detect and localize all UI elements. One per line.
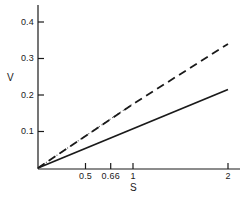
x-tick-marks xyxy=(86,163,229,169)
x-tick-label-1: 1 xyxy=(123,171,143,181)
y-axis-title: V xyxy=(7,72,14,83)
plot-area xyxy=(0,0,250,199)
chart-figure: 0.1 0.2 0.3 0.4 0.5 0.66 1 2 V S xyxy=(0,0,250,199)
y-tick-label-0.4: 0.4 xyxy=(10,17,34,27)
y-tick-label-0.1: 0.1 xyxy=(10,126,34,136)
y-tick-label-0.3: 0.3 xyxy=(10,53,34,63)
x-axis-title: S xyxy=(130,182,137,193)
y-tick-marks xyxy=(38,22,44,132)
dashed-line-series xyxy=(38,44,228,168)
y-tick-label-0.2: 0.2 xyxy=(10,90,34,100)
solid-line-series xyxy=(38,90,228,168)
x-tick-label-2: 2 xyxy=(218,171,238,181)
